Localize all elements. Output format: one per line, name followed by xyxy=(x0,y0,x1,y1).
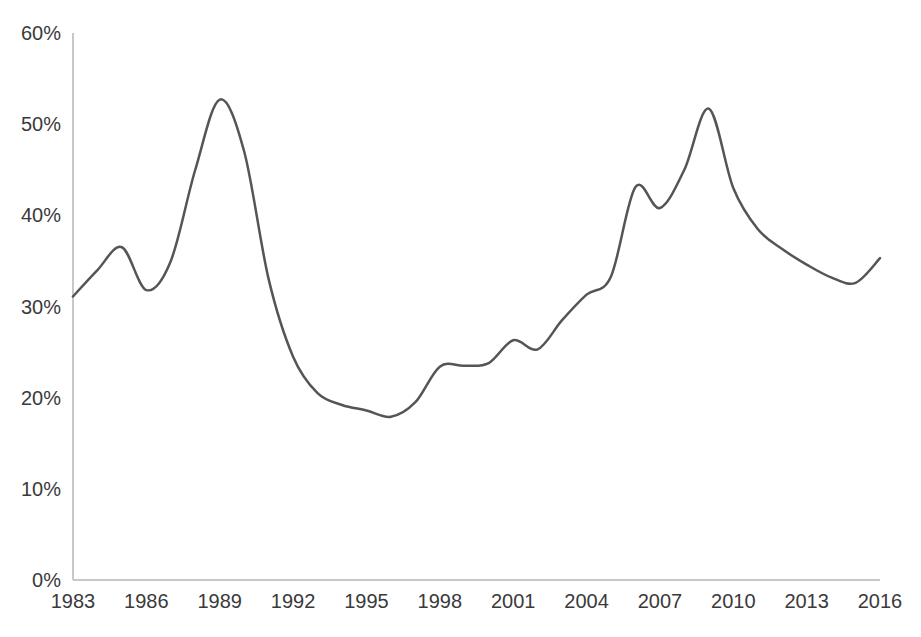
x-tick-label: 2016 xyxy=(858,590,903,612)
x-tick-label: 2004 xyxy=(564,590,609,612)
line-chart: 0%10%20%30%40%50%60% 1983198619891992199… xyxy=(0,0,921,637)
x-tick-label: 2013 xyxy=(784,590,829,612)
y-tick-label: 60% xyxy=(21,22,61,44)
x-tick-label: 1992 xyxy=(271,590,316,612)
y-tick-label: 30% xyxy=(21,296,61,318)
x-tick-label: 2001 xyxy=(491,590,536,612)
y-tick-label: 40% xyxy=(21,204,61,226)
chart-container: 0%10%20%30%40%50%60% 1983198619891992199… xyxy=(0,0,921,637)
chart-background xyxy=(0,0,921,637)
x-tick-label: 1983 xyxy=(51,590,96,612)
y-tick-label: 0% xyxy=(32,569,61,591)
y-tick-label: 10% xyxy=(21,478,61,500)
x-tick-label: 1986 xyxy=(124,590,169,612)
y-tick-label: 50% xyxy=(21,113,61,135)
x-tick-label: 2010 xyxy=(711,590,756,612)
y-tick-label: 20% xyxy=(21,387,61,409)
x-tick-label: 1998 xyxy=(418,590,463,612)
x-tick-label: 2007 xyxy=(638,590,683,612)
x-tick-label: 1989 xyxy=(197,590,242,612)
x-tick-label: 1995 xyxy=(344,590,389,612)
